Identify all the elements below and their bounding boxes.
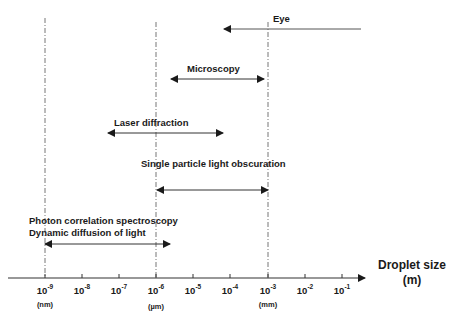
tick-label: 10-2: [297, 284, 313, 296]
microscopy-label: Microscopy: [187, 63, 240, 74]
axis-title-line2: (m): [372, 273, 452, 288]
axis-title-line1: Droplet size: [372, 258, 452, 273]
tick-label: 10-5: [185, 284, 201, 296]
tick-label: 10-6: [148, 284, 164, 296]
photon-correlation-label: Photon correlation spectroscopy: [29, 215, 178, 226]
laser-diffraction-label: Laser diffraction: [114, 117, 188, 128]
unit-label-nm: (nm): [37, 300, 53, 309]
dynamic-diffusion-label: Dynamic diffusion of light: [29, 227, 146, 238]
tick-label: 10-8: [74, 284, 90, 296]
tick-label: 10-1: [334, 284, 350, 296]
unit-label-mm: (mm): [259, 300, 277, 309]
unit-label-um: (µm): [148, 302, 164, 311]
eye-label: Eye: [273, 13, 290, 24]
tick-label: 10-4: [222, 284, 238, 296]
reference-lines: [45, 18, 268, 278]
tick-label: 10-3: [260, 284, 276, 296]
single-particle-label: Single particle light obscuration: [141, 158, 286, 169]
tick-label: 10-7: [111, 284, 127, 296]
axis-title: Droplet size (m): [372, 258, 452, 288]
tick-label: 10-9: [37, 284, 53, 296]
